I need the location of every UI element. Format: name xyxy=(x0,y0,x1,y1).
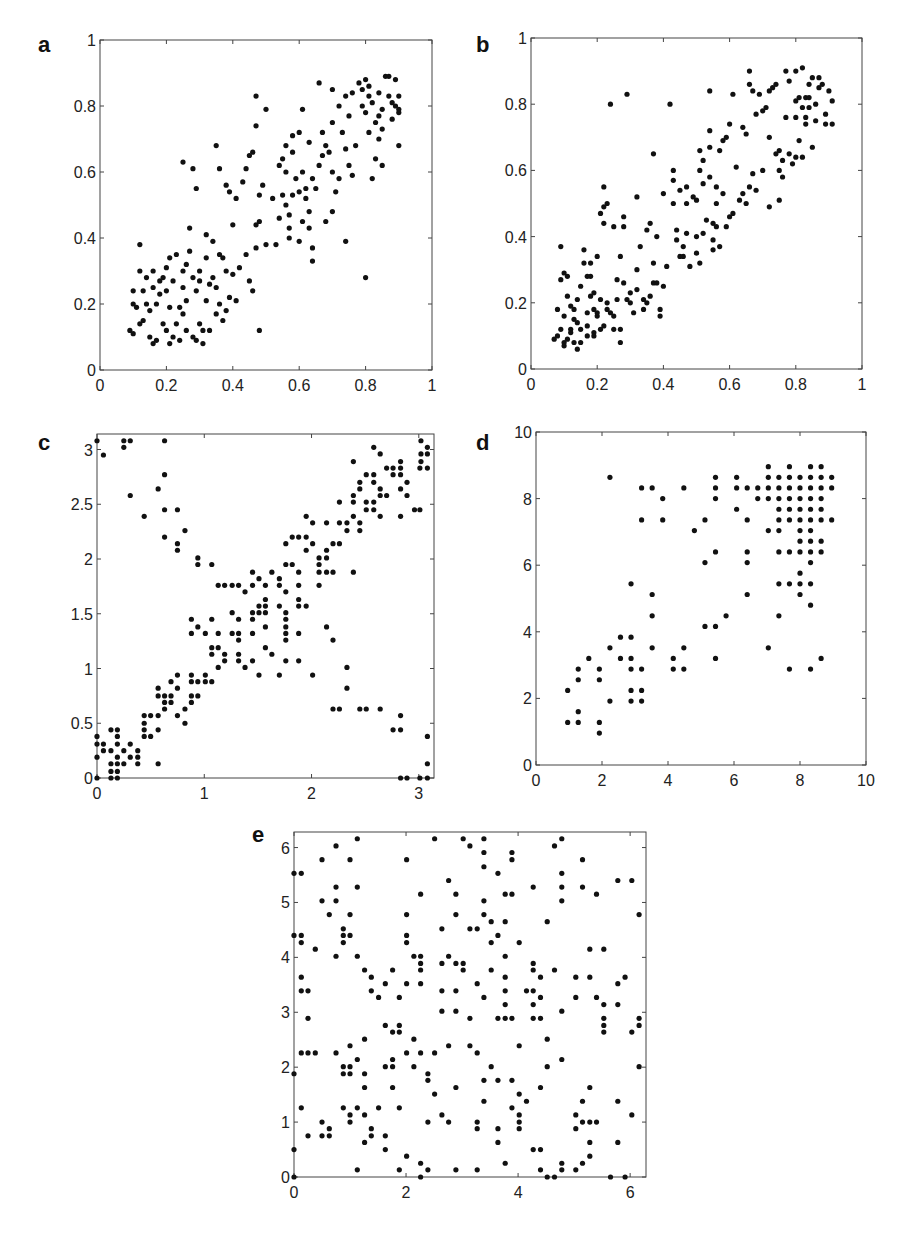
panel-e: e 02460123456 xyxy=(240,810,660,1234)
y-tick-label: 6 xyxy=(523,557,532,574)
x-tick-label: 1 xyxy=(858,376,867,393)
plot-frame xyxy=(531,38,862,369)
data-points xyxy=(552,65,835,352)
scatter-plot-b: 00.20.40.60.8100.20.40.60.81 xyxy=(450,0,899,400)
scatter-plot-e: 02460123456 xyxy=(240,810,660,1234)
y-tick-label: 0 xyxy=(281,1169,290,1186)
y-tick-label: 2.5 xyxy=(71,496,93,513)
x-tick-label: 6 xyxy=(626,1184,635,1201)
panel-label-e: e xyxy=(252,822,264,848)
y-tick-label: 2 xyxy=(281,1059,290,1076)
y-tick-label: 0.8 xyxy=(505,96,527,113)
x-tick-label: 8 xyxy=(796,772,805,789)
x-tick-label: 3 xyxy=(414,785,423,802)
panel-label-b: b xyxy=(476,32,489,58)
x-tick-label: 0.2 xyxy=(155,377,177,394)
y-tick-label: 1 xyxy=(87,32,96,49)
x-tick-label: 0 xyxy=(532,772,541,789)
panel-d: d 02468100246810 xyxy=(450,400,899,810)
y-tick-label: 4 xyxy=(523,624,532,641)
y-tick-label: 0.2 xyxy=(505,295,527,312)
data-points xyxy=(94,438,430,780)
x-tick-label: 1 xyxy=(428,377,437,394)
data-points xyxy=(291,836,641,1179)
y-tick-label: 10 xyxy=(514,424,532,441)
x-tick-label: 0.4 xyxy=(222,377,244,394)
y-tick-label: 0.4 xyxy=(74,230,96,247)
x-tick-label: 0.4 xyxy=(652,376,674,393)
x-tick-label: 10 xyxy=(857,772,875,789)
x-tick-label: 6 xyxy=(730,772,739,789)
y-tick-label: 1 xyxy=(281,1114,290,1131)
x-tick-label: 2 xyxy=(307,785,316,802)
y-tick-label: 5 xyxy=(281,894,290,911)
y-tick-label: 0.6 xyxy=(74,164,96,181)
scatter-plot-c: 012300.511.522.53 xyxy=(0,400,450,810)
y-tick-label: 2 xyxy=(523,690,532,707)
x-tick-label: 0.8 xyxy=(785,376,807,393)
x-tick-label: 4 xyxy=(664,772,673,789)
scatter-plot-a: 00.20.40.60.8100.20.40.60.81 xyxy=(0,0,450,400)
y-tick-label: 1 xyxy=(84,661,93,678)
scatter-plot-d: 02468100246810 xyxy=(450,400,899,810)
y-tick-label: 0.5 xyxy=(71,715,93,732)
x-tick-label: 2 xyxy=(598,772,607,789)
x-tick-label: 0 xyxy=(96,377,105,394)
y-tick-label: 0.4 xyxy=(505,229,527,246)
y-tick-label: 0.2 xyxy=(74,296,96,313)
y-tick-label: 3 xyxy=(281,1004,290,1021)
x-tick-label: 0.6 xyxy=(718,376,740,393)
y-tick-label: 8 xyxy=(523,491,532,508)
data-points xyxy=(127,74,401,347)
x-tick-label: 0 xyxy=(290,1184,299,1201)
y-tick-label: 0.6 xyxy=(505,162,527,179)
y-tick-label: 2 xyxy=(84,551,93,568)
y-tick-label: 6 xyxy=(281,840,290,857)
panel-label-d: d xyxy=(476,430,489,456)
panel-label-a: a xyxy=(38,32,50,58)
y-tick-label: 1.5 xyxy=(71,606,93,623)
x-tick-label: 0 xyxy=(93,785,102,802)
y-tick-label: 1 xyxy=(518,30,527,47)
panel-a: a 00.20.40.60.8100.20.40.60.81 xyxy=(0,0,450,400)
plot-frame xyxy=(536,432,866,765)
x-tick-label: 0.6 xyxy=(288,377,310,394)
panel-c: c 012300.511.522.53 xyxy=(0,400,450,810)
x-tick-label: 0.8 xyxy=(354,377,376,394)
y-tick-label: 3 xyxy=(84,442,93,459)
panel-b: b 00.20.40.60.8100.20.40.60.81 xyxy=(450,0,899,400)
plot-frame xyxy=(294,832,646,1177)
y-tick-label: 0 xyxy=(84,770,93,787)
x-tick-label: 2 xyxy=(402,1184,411,1201)
x-tick-label: 1 xyxy=(200,785,209,802)
panel-label-c: c xyxy=(38,430,50,456)
x-tick-label: 4 xyxy=(514,1184,523,1201)
plot-frame xyxy=(100,40,432,370)
y-tick-label: 0 xyxy=(523,757,532,774)
y-tick-label: 4 xyxy=(281,949,290,966)
y-tick-label: 0 xyxy=(518,361,527,378)
x-tick-label: 0 xyxy=(527,376,536,393)
y-tick-label: 0.8 xyxy=(74,98,96,115)
x-tick-label: 0.2 xyxy=(586,376,608,393)
data-points xyxy=(565,464,834,736)
y-tick-label: 0 xyxy=(87,362,96,379)
